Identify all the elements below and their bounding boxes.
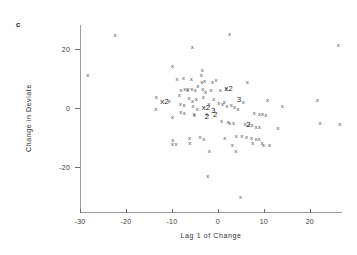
data-point: x — [262, 142, 265, 148]
data-point: x — [171, 141, 174, 147]
data-point: x — [154, 106, 157, 112]
data-point: x — [212, 96, 215, 102]
data-point: 2 — [205, 113, 209, 121]
data-point: 3 — [237, 96, 241, 104]
data-point: x — [245, 134, 248, 140]
data-point: x — [246, 79, 249, 85]
data-point: x — [155, 94, 158, 100]
panel-label: c — [16, 20, 20, 29]
data-point: x — [183, 110, 186, 116]
data-point: x — [277, 125, 280, 131]
data-point: x — [226, 103, 229, 109]
data-point: x — [208, 148, 211, 154]
data-point: x — [187, 95, 190, 101]
data-point: x — [318, 120, 321, 126]
data-point: x — [182, 75, 185, 81]
data-point: xx — [258, 111, 264, 117]
data-point: x — [228, 31, 231, 37]
data-point: x — [258, 124, 261, 130]
x-tick-mark — [310, 209, 311, 213]
data-point: x — [179, 109, 182, 115]
data-point: x — [268, 142, 271, 148]
data-point: x — [231, 142, 234, 148]
data-point: x — [232, 120, 235, 126]
y-tick-label: 0 — [66, 105, 70, 112]
data-point: x — [193, 112, 196, 118]
data-point: x — [242, 99, 245, 105]
data-point: x2 — [224, 85, 232, 93]
x-tick-label: -20 — [121, 218, 132, 225]
x-tick-label: -30 — [75, 218, 86, 225]
data-point: x — [201, 67, 204, 73]
data-point: x — [203, 78, 206, 84]
plot-area: -30-20-1001020 200-20 xxxxx2xxxxxxxxxxxx… — [80, 25, 342, 212]
data-point: x — [179, 101, 182, 107]
data-point: x — [235, 133, 238, 139]
data-point: x — [190, 86, 193, 92]
data-point: x — [182, 102, 185, 108]
data-point: x — [210, 87, 213, 93]
x-tick-label: 0 — [216, 218, 220, 225]
data-point: x — [220, 118, 223, 124]
data-point: x — [239, 194, 242, 200]
data-point: x — [264, 112, 267, 118]
data-point: x — [190, 76, 193, 82]
x-tick-label: -10 — [167, 218, 178, 225]
data-point: x — [171, 114, 174, 120]
x-tick-label: 10 — [260, 218, 268, 225]
data-point: x — [228, 120, 231, 126]
y-axis-title: Change in Deviate — [25, 84, 32, 152]
data-point: x — [281, 103, 284, 109]
data-point: x — [175, 141, 178, 147]
y-tick-mark — [75, 49, 80, 50]
data-point: x — [202, 136, 205, 142]
data-point: x — [337, 42, 340, 48]
data-point: x — [196, 106, 199, 112]
data-point: x — [113, 32, 116, 38]
data-point: x — [211, 79, 214, 85]
y-tick-label: -20 — [59, 164, 70, 171]
scatter-plot-figure: c -30-20-1001020 200-20 xxxxx2xxxxxxxxxx… — [0, 0, 357, 255]
data-point: x — [195, 96, 198, 102]
x-tick-mark — [80, 209, 81, 213]
x-tick-mark — [218, 209, 219, 213]
data-point: x — [207, 101, 210, 107]
data-point: x — [316, 97, 319, 103]
data-point: xx — [254, 136, 260, 142]
data-point: x — [198, 134, 201, 140]
data-point: x — [196, 83, 199, 89]
y-tick-mark — [75, 108, 80, 109]
data-point: x — [86, 72, 89, 78]
data-point: x — [192, 103, 195, 109]
data-point: x — [206, 173, 209, 179]
data-point: x — [253, 110, 256, 116]
data-point: x — [188, 140, 191, 146]
x-tick-label: 20 — [306, 218, 314, 225]
data-point: x — [223, 135, 226, 141]
x-axis-line — [80, 212, 342, 213]
data-point: x — [217, 100, 220, 106]
data-point: x — [338, 121, 341, 127]
x-tick-mark — [264, 209, 265, 213]
data-point: x — [180, 87, 183, 93]
data-point: x — [168, 98, 171, 104]
data-point: x — [233, 104, 236, 110]
x-axis-title: Lag 1 of Change — [181, 232, 242, 239]
data-point: x — [191, 44, 194, 50]
y-axis-line — [80, 25, 81, 212]
data-point: 2 — [213, 111, 217, 119]
x-tick-mark — [172, 209, 173, 213]
data-point: x — [204, 89, 207, 95]
data-point: x — [215, 77, 218, 83]
y-tick-mark — [75, 167, 80, 168]
data-point: x — [171, 63, 174, 69]
data-point: x — [240, 133, 243, 139]
data-point: xx — [248, 122, 254, 128]
data-point: x — [187, 86, 190, 92]
y-tick-label: 20 — [62, 45, 70, 52]
data-point: x — [234, 148, 237, 154]
data-point: x — [237, 106, 240, 112]
x-tick-mark — [126, 209, 127, 213]
data-point: x — [266, 97, 269, 103]
data-point: x — [175, 76, 178, 82]
